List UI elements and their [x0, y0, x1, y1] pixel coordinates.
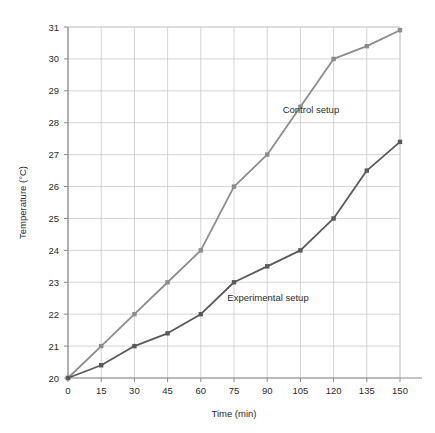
- data-point-marker: [365, 44, 369, 48]
- y-tick-label: 20: [48, 373, 59, 384]
- data-point-marker: [66, 376, 70, 380]
- y-tick-label: 29: [48, 85, 59, 96]
- data-point-marker: [199, 248, 203, 252]
- y-tick-label: 31: [48, 22, 59, 33]
- data-point-marker: [99, 344, 103, 348]
- line-chart: 0153045607590105120135150 20212223242526…: [0, 0, 435, 433]
- data-point-marker: [365, 168, 369, 172]
- series-annotation-label: Experimental setup: [227, 292, 308, 303]
- tick-marks: [64, 27, 400, 382]
- y-tick-label: 26: [48, 181, 59, 192]
- x-tick-labels: 0153045607590105120135150: [65, 385, 408, 396]
- axis-lines: [68, 27, 422, 378]
- y-tick-label: 25: [48, 213, 59, 224]
- x-tick-label: 120: [326, 385, 342, 396]
- data-point-marker: [199, 312, 203, 316]
- y-tick-label: 28: [48, 117, 59, 128]
- x-tick-label: 75: [229, 385, 240, 396]
- data-point-marker: [99, 363, 103, 367]
- x-tick-label: 0: [65, 385, 70, 396]
- data-point-marker: [132, 312, 136, 316]
- data-point-marker: [331, 216, 335, 220]
- data-point-marker: [232, 280, 236, 284]
- x-tick-label: 135: [359, 385, 375, 396]
- data-point-marker: [265, 152, 269, 156]
- x-tick-label: 150: [392, 385, 408, 396]
- y-tick-label: 24: [48, 245, 59, 256]
- y-tick-label: 21: [48, 341, 59, 352]
- data-point-marker: [298, 248, 302, 252]
- x-tick-label: 30: [129, 385, 140, 396]
- series-annotation-label: Control setup: [283, 104, 340, 115]
- x-tick-label: 60: [196, 385, 207, 396]
- y-tick-label: 27: [48, 149, 59, 160]
- x-tick-label: 105: [292, 385, 308, 396]
- y-tick-label: 23: [48, 277, 59, 288]
- grid-lines: [68, 27, 400, 378]
- data-point-marker: [232, 184, 236, 188]
- x-tick-label: 90: [262, 385, 273, 396]
- y-tick-labels: 202122232425262728293031: [48, 22, 59, 384]
- y-tick-label: 22: [48, 309, 59, 320]
- data-point-marker: [331, 57, 335, 61]
- data-point-marker: [398, 28, 402, 32]
- x-tick-label: 15: [96, 385, 107, 396]
- y-tick-label: 30: [48, 53, 59, 64]
- data-point-marker: [132, 344, 136, 348]
- x-tick-label: 45: [162, 385, 173, 396]
- y-axis-title: Temperature (°C): [17, 166, 28, 239]
- data-point-marker: [398, 140, 402, 144]
- chart-container: 0153045607590105120135150 20212223242526…: [0, 0, 435, 433]
- data-point-marker: [265, 264, 269, 268]
- data-point-marker: [165, 280, 169, 284]
- series-annotations: Control setupExperimental setup: [227, 104, 339, 303]
- x-axis-title: Time (min): [211, 408, 256, 419]
- data-point-marker: [165, 331, 169, 335]
